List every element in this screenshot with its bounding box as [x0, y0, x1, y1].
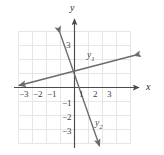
y-tick-label-neg2: −2 — [62, 113, 72, 122]
y-axis-label: y — [70, 3, 74, 13]
x-tick-label-neg1: −1 — [47, 90, 57, 99]
curve-label-y2: y2 — [95, 119, 103, 131]
curve-label-y2-sub: 2 — [99, 123, 103, 131]
x-tick-label-3: 3 — [107, 90, 112, 99]
x-tick-label-1: 1 — [79, 90, 84, 99]
x-axis-label: x — [146, 82, 150, 92]
x-tick-label-neg3: −3 — [19, 90, 29, 99]
curve-label-y1-sub: 1 — [91, 55, 95, 63]
curve-label-y1: y1 — [87, 51, 95, 63]
x-tick-label-2: 2 — [93, 90, 98, 99]
y-tick-label-3: 3 — [66, 41, 71, 50]
y-tick-label-neg1: −1 — [62, 99, 72, 108]
y-tick-label-neg3: −3 — [62, 127, 72, 136]
coordinate-plane-figure: x y −3 −2 −1 1 2 3 3 −1 −2 −3 y1 y2 — [0, 0, 164, 155]
x-tick-label-neg2: −2 — [33, 90, 43, 99]
graph-canvas — [0, 0, 164, 155]
